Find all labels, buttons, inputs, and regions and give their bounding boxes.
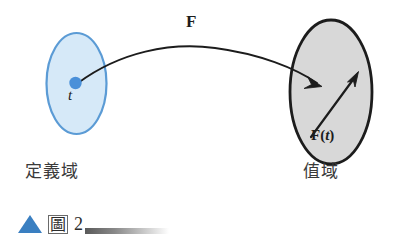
figure-word-label: 圖: [48, 215, 68, 234]
mapping-arrow-label: F: [186, 13, 196, 30]
triangle-up-icon: [18, 215, 42, 233]
vector-label-paren-close: ): [329, 127, 334, 143]
figure-container: F F(t) t 定義域 值域 圖 2: [0, 0, 402, 243]
figure-caption: 圖 2: [18, 210, 169, 238]
vector-function-diagram: [0, 0, 402, 243]
domain-set-label: 定義域: [25, 163, 79, 180]
vector-arrow-label: F(t): [311, 128, 334, 143]
caption-gradient-rule: [85, 228, 169, 234]
mapping-arrow-curve: [78, 46, 317, 83]
figure-number-label: 2: [74, 214, 83, 235]
vector-label-F: F: [311, 127, 320, 143]
range-set-label: 值域: [303, 163, 339, 180]
domain-point-label: t: [68, 88, 72, 103]
